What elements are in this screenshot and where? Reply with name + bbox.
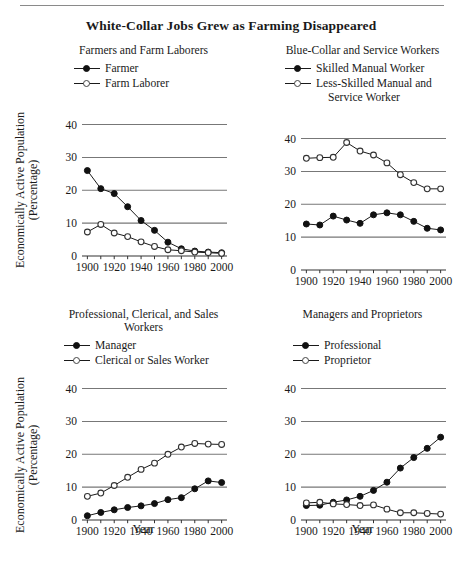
data-point — [98, 490, 104, 496]
panel-title: Farmers and Farm Laborers — [56, 44, 231, 57]
x-axis-tick-label: 1960 — [156, 525, 179, 537]
x-axis-tick-label: 1900 — [76, 261, 99, 273]
panel-managers-and-proprietors: Managers and Proprietors Professional Pr… — [275, 308, 450, 538]
top-horizontal-rule — [20, 5, 444, 6]
legend-label: Farm Laborer — [105, 77, 169, 91]
data-point — [165, 239, 171, 245]
data-point — [438, 511, 444, 517]
data-point — [98, 222, 104, 228]
data-point — [411, 180, 417, 186]
data-point — [178, 495, 184, 501]
y-axis-tick-label: 30 — [52, 151, 77, 163]
data-point — [192, 249, 198, 255]
legend: Skilled Manual Worker Less-Skilled Manua… — [285, 62, 432, 106]
data-point — [219, 480, 225, 486]
data-point — [411, 218, 417, 224]
data-point — [178, 248, 184, 254]
data-point — [84, 493, 90, 499]
data-point — [138, 218, 144, 224]
plot-area — [301, 382, 446, 520]
legend-label: Proprietor — [324, 354, 371, 368]
data-point — [357, 220, 363, 226]
y-axis-tick-label: 20 — [52, 184, 77, 196]
panel-title: Professional, Clerical, and Sales Worker… — [56, 308, 231, 334]
series-line — [306, 143, 440, 189]
series-line — [87, 481, 221, 516]
data-point — [317, 222, 323, 228]
legend-key-filled-circle-icon — [293, 339, 319, 353]
data-point — [424, 186, 430, 192]
data-point — [219, 250, 225, 256]
data-point — [371, 502, 377, 508]
data-point — [411, 455, 417, 461]
y-axis-tick-label: 30 — [52, 415, 77, 427]
y-axis-label-top-row: Economically Active Population (Percenta… — [14, 100, 40, 280]
legend-key-filled-circle-icon — [74, 62, 100, 76]
x-axis-tick-label: 2000 — [429, 525, 452, 537]
data-point — [125, 505, 131, 511]
x-axis-tick-label: 1940 — [349, 275, 372, 287]
y-axis-tick-label: 40 — [271, 133, 296, 145]
data-point — [192, 441, 198, 447]
data-point — [384, 506, 390, 512]
legend-label: Less-Skilled Manual andService Worker — [316, 77, 432, 105]
legend-key-filled-circle-icon — [285, 62, 311, 76]
data-point — [424, 445, 430, 451]
y-axis-tick-label: 0 — [271, 264, 296, 276]
y-axis-tick-label: 20 — [271, 198, 296, 210]
data-point — [125, 474, 131, 480]
panel-title: Blue-Collar and Service Workers — [275, 44, 450, 57]
data-point — [111, 507, 117, 513]
data-point — [152, 460, 158, 466]
legend-item: Professional — [293, 339, 381, 353]
x-axis-tick-label: 1920 — [103, 525, 126, 537]
data-point — [397, 510, 403, 516]
x-axis-tick-label: 1960 — [156, 261, 179, 273]
data-point — [357, 493, 363, 499]
legend-item: Less-Skilled Manual andService Worker — [285, 77, 432, 105]
y-axis-tick-label: 10 — [52, 217, 77, 229]
y-axis-tick-label: 20 — [271, 448, 296, 460]
series-line — [87, 443, 221, 496]
y-axis-tick-label: 40 — [52, 119, 77, 131]
data-point — [205, 250, 211, 256]
data-point — [317, 499, 323, 505]
x-axis-tick-label: 1920 — [103, 261, 126, 273]
panel-farmers-and-farm-laborers: Farmers and Farm Laborers Farmer Farm La… — [56, 44, 231, 274]
data-point — [205, 441, 211, 447]
data-point — [98, 509, 104, 515]
legend-label: Clerical or Sales Worker — [95, 354, 209, 368]
y-axis-tick-label: 0 — [52, 250, 77, 262]
panel-professional-clerical-and-sales-workers: Professional, Clerical, and Sales Worker… — [56, 308, 231, 538]
data-point — [438, 227, 444, 233]
x-axis-tick-label: 1980 — [402, 525, 425, 537]
figure-title: White-Collar Jobs Grew as Farming Disapp… — [0, 18, 462, 34]
legend-item: Manager — [64, 339, 209, 353]
plot-svg — [301, 382, 460, 532]
data-point — [111, 230, 117, 236]
legend: Farmer Farm Laborer — [74, 62, 169, 92]
y-axis-tick-label: 10 — [271, 481, 296, 493]
y-axis-tick-label: 40 — [52, 383, 77, 395]
y-axis-tick-label: 30 — [271, 415, 296, 427]
data-point — [178, 444, 184, 450]
y-axis-tick-label: 40 — [271, 383, 296, 395]
data-point — [371, 152, 377, 158]
data-point — [344, 140, 350, 146]
data-point — [384, 210, 390, 216]
plot-area — [301, 132, 446, 270]
plot-svg — [82, 382, 241, 532]
data-point — [330, 154, 336, 160]
figure-root: White-Collar Jobs Grew as Farming Disapp… — [0, 0, 462, 575]
data-point — [330, 501, 336, 507]
data-point — [344, 217, 350, 223]
x-axis-tick-label: 1940 — [130, 261, 153, 273]
data-point — [165, 451, 171, 457]
legend-key-filled-circle-icon — [64, 339, 90, 353]
data-point — [165, 497, 171, 503]
data-point — [438, 434, 444, 440]
data-point — [411, 510, 417, 516]
x-axis-tick-label: 1900 — [295, 275, 318, 287]
data-point — [357, 148, 363, 154]
data-point — [152, 501, 158, 507]
